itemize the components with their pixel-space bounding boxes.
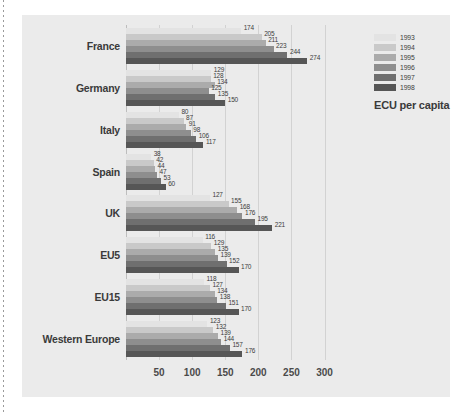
- legend-items: 199319941995199619971998: [374, 33, 448, 91]
- bar-value-label: 135: [218, 90, 228, 97]
- bar-row[interactable]: 176: [126, 351, 461, 357]
- bar-value-label: 117: [206, 138, 216, 145]
- axis-tick-label: 250: [283, 367, 300, 378]
- legend-label: 1995: [400, 54, 415, 61]
- bar[interactable]: [126, 184, 166, 190]
- category-label-eu5: EU5: [100, 249, 120, 261]
- bar-value-label: 176: [245, 209, 255, 216]
- chart-panel: FranceGermanyItalySpainUKEU5EU15Western …: [22, 15, 450, 397]
- bar-row[interactable]: 170: [126, 267, 461, 273]
- category-label-uk: UK: [105, 207, 120, 219]
- bar-group: 123132139144157176: [126, 321, 461, 357]
- axis-tick-label: 50: [154, 367, 165, 378]
- bar-group: 127155168176195221: [126, 195, 461, 231]
- category-axis-labels: FranceGermanyItalySpainUKEU5EU15Western …: [22, 25, 120, 360]
- legend-item-1993[interactable]: 1993: [374, 33, 448, 41]
- axis-tick-label: 200: [250, 367, 267, 378]
- axis-tick-label: 100: [184, 367, 201, 378]
- plot-area: 1742052112232442741291281341251351508087…: [126, 25, 351, 360]
- bar-group: 384244475360: [126, 154, 461, 190]
- category-label-germany: Germany: [76, 82, 120, 94]
- bar[interactable]: [126, 267, 239, 273]
- bar[interactable]: [126, 100, 225, 106]
- bar-value-label: 170: [241, 305, 251, 312]
- legend-item-1996[interactable]: 1996: [374, 63, 448, 71]
- bar-value-label: 150: [228, 96, 238, 103]
- category-label-italy: Italy: [100, 124, 120, 136]
- bar-value-label: 176: [245, 347, 255, 354]
- legend-label: 1993: [400, 34, 415, 41]
- legend-item-1994[interactable]: 1994: [374, 43, 448, 51]
- bar-value-label: 174: [244, 24, 254, 31]
- bar[interactable]: [126, 142, 203, 148]
- legend-swatch: [374, 44, 396, 51]
- legend-item-1998[interactable]: 1998: [374, 83, 448, 91]
- legend-swatch: [374, 34, 396, 41]
- bar[interactable]: [126, 351, 242, 357]
- bar-group: 118127134138151170: [126, 279, 461, 315]
- bar[interactable]: [126, 225, 272, 231]
- legend-item-1997[interactable]: 1997: [374, 73, 448, 81]
- bar-value-label: 170: [241, 263, 251, 270]
- bar-row[interactable]: 60: [126, 184, 461, 190]
- bar-value-label: 127: [213, 191, 223, 198]
- bar[interactable]: [126, 309, 239, 315]
- bar-value-label: 151: [228, 299, 238, 306]
- bar-value-label: 152: [229, 257, 239, 264]
- bar[interactable]: [126, 58, 307, 64]
- bar-value-label: 221: [275, 221, 285, 228]
- bar-group: 80879198106117: [126, 112, 461, 148]
- legend-swatch: [374, 64, 396, 71]
- bar-value-label: 223: [276, 42, 286, 49]
- bar-row[interactable]: 117: [126, 142, 461, 148]
- category-label-eu15: EU15: [95, 291, 120, 303]
- category-label-france: France: [87, 40, 120, 52]
- category-label-western-europe: Western Europe: [42, 333, 120, 345]
- axis-tick-label: 300: [316, 367, 333, 378]
- bar-row[interactable]: 221: [126, 225, 461, 231]
- legend-item-1995[interactable]: 1995: [374, 53, 448, 61]
- page-margin-rule: [3, 0, 4, 412]
- legend-swatch: [374, 54, 396, 61]
- bar-value-label: 60: [168, 180, 175, 187]
- legend-label: 1994: [400, 44, 415, 51]
- bar-value-label: 195: [258, 215, 268, 222]
- legend-swatch: [374, 74, 396, 81]
- category-label-spain: Spain: [92, 166, 120, 178]
- legend-label: 1997: [400, 74, 415, 81]
- axis-tick-label: 150: [217, 367, 234, 378]
- chart-legend: 199319941995199619971998 ECU per capita: [374, 33, 448, 111]
- bar-value-label: 244: [290, 48, 300, 55]
- legend-swatch: [374, 84, 396, 91]
- bar-value-label: 157: [232, 341, 242, 348]
- value-axis: 50100150200250300: [126, 367, 351, 387]
- legend-label: 1996: [400, 64, 415, 71]
- bar-value-label: 274: [310, 54, 320, 61]
- bar-row[interactable]: 170: [126, 309, 461, 315]
- legend-title: ECU per capita: [374, 99, 448, 111]
- bar-group: 116129135139152170: [126, 237, 461, 273]
- legend-label: 1998: [400, 84, 415, 91]
